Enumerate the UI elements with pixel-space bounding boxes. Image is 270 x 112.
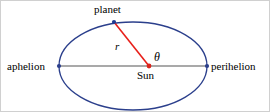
perihelion-label: perihelion	[211, 61, 256, 72]
orbit-diagram-canvas	[1, 1, 270, 112]
radius-symbol-label: r	[115, 41, 119, 52]
perihelion-vertex-marker	[205, 64, 209, 68]
planet-label: planet	[94, 4, 121, 15]
orbit-diagram-figure: aphelion perihelion planet Sun r θ	[0, 0, 270, 112]
aphelion-vertex-marker	[57, 64, 61, 68]
aphelion-label: aphelion	[7, 61, 45, 72]
planet-marker	[112, 20, 116, 24]
angle-theta-label: θ	[154, 51, 160, 63]
sun-label: Sun	[137, 70, 154, 81]
sun-marker	[147, 64, 152, 69]
